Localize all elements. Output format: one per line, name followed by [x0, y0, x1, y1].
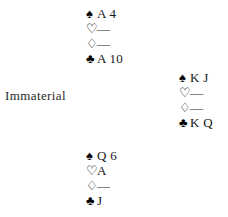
club-suit-symbol: ♣ [86, 51, 97, 66]
east-diamond-holding: — [190, 100, 203, 115]
north-diamond-row: ♢ — [86, 36, 123, 51]
spade-suit-symbol: ♠ [86, 148, 97, 163]
north-heart-row: ♡ — [86, 21, 123, 36]
north-club-row: ♣ A 10 [86, 51, 123, 66]
south-diamond-row: ♢ — [86, 178, 117, 193]
east-spade-row: ♠ K J [179, 70, 213, 85]
east-diamond-row: ♢ — [179, 100, 213, 115]
south-club-row: ♣ J [86, 193, 117, 208]
diamond-suit-symbol: ♢ [86, 36, 97, 51]
club-suit-symbol: ♣ [86, 193, 97, 208]
south-spade-row: ♠ Q 6 [86, 148, 117, 163]
spade-suit-symbol: ♠ [179, 70, 190, 85]
heart-suit-symbol: ♡ [86, 21, 97, 36]
north-spade-holding: A 4 [97, 6, 116, 21]
west-hand-label: Immaterial [5, 88, 66, 103]
north-hand: ♠ A 4 ♡ — ♢ — ♣ A 10 [86, 6, 123, 66]
east-heart-row: ♡ — [179, 85, 213, 100]
east-heart-holding: — [190, 85, 203, 100]
south-heart-row: ♡ A [86, 163, 117, 178]
south-hand: ♠ Q 6 ♡ A ♢ — ♣ J [86, 148, 117, 208]
south-club-holding: J [97, 193, 102, 208]
bridge-hand-diagram: ♠ A 4 ♡ — ♢ — ♣ A 10 Immaterial ♠ K J ♡ … [0, 0, 228, 217]
north-club-holding: A 10 [97, 51, 123, 66]
heart-suit-symbol: ♡ [179, 85, 190, 100]
spade-suit-symbol: ♠ [86, 6, 97, 21]
north-diamond-holding: — [97, 36, 110, 51]
diamond-suit-symbol: ♢ [179, 100, 190, 115]
heart-suit-symbol: ♡ [86, 163, 97, 178]
south-spade-holding: Q 6 [97, 148, 117, 163]
club-suit-symbol: ♣ [179, 115, 190, 130]
east-club-holding: K Q [190, 115, 213, 130]
east-hand: ♠ K J ♡ — ♢ — ♣ K Q [179, 70, 213, 130]
north-heart-holding: — [97, 21, 110, 36]
east-club-row: ♣ K Q [179, 115, 213, 130]
south-diamond-holding: — [97, 178, 110, 193]
east-spade-holding: K J [190, 70, 209, 85]
north-spade-row: ♠ A 4 [86, 6, 123, 21]
diamond-suit-symbol: ♢ [86, 178, 97, 193]
south-heart-holding: A [97, 163, 107, 178]
